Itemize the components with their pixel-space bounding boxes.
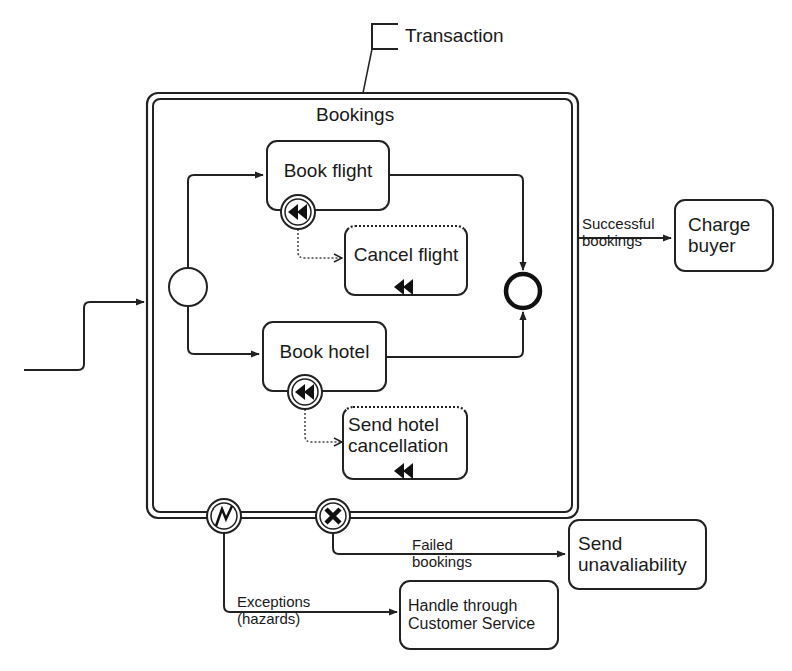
compensation-boundary-event-hotel <box>288 375 322 409</box>
compensation-marker-icon <box>394 279 413 295</box>
flow-label-line: bookings <box>582 232 642 249</box>
compensation-boundary-event-flight <box>281 195 315 229</box>
flow-label-line: Exceptions <box>237 593 310 610</box>
compensation-marker-icon <box>394 463 413 479</box>
flow-label-line: Successful <box>582 215 655 232</box>
flow-label-successful: Successful bookings <box>582 216 655 250</box>
flow-label-line: (hazards) <box>237 610 300 627</box>
compensation-markers-layer <box>0 0 792 671</box>
flow-label-line: Failed <box>412 536 453 553</box>
flow-label-exceptions: Exceptions (hazards) <box>237 594 310 628</box>
flow-label-failed: Failed bookings <box>412 537 472 571</box>
flow-label-line: bookings <box>412 553 472 570</box>
